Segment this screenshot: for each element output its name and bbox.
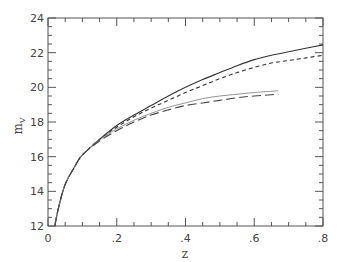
- series-upper-solid: [55, 45, 323, 226]
- chart: 0.2.4.6.8 12141618202224 z mV: [0, 0, 339, 262]
- y-axis-label-main: m: [11, 123, 25, 135]
- y-tick-label: 22: [30, 47, 44, 60]
- plot-border: [48, 18, 323, 226]
- series-lower-long-dash: [55, 94, 278, 226]
- y-tick-label: 12: [30, 220, 44, 233]
- x-axis-label: z: [182, 247, 188, 261]
- series-lower-solid-thin: [55, 91, 278, 226]
- x-tick-label: .8: [318, 232, 329, 245]
- x-tick-label: 0: [45, 232, 52, 245]
- y-tick-label: 24: [30, 12, 44, 25]
- plot-frame: [48, 18, 323, 226]
- y-tick-label: 14: [30, 185, 44, 198]
- y-axis-label-subscript: V: [18, 117, 27, 124]
- y-tick-label: 16: [30, 151, 44, 164]
- series-upper-short-dash: [55, 55, 323, 226]
- x-tick-labels: 0.2.4.6.8: [45, 232, 329, 245]
- x-tick-label: .4: [180, 232, 191, 245]
- x-tick-label: .2: [112, 232, 123, 245]
- data-series: [55, 45, 323, 226]
- y-tick-label: 20: [30, 81, 44, 94]
- x-tick-label: .6: [249, 232, 260, 245]
- y-tick-label: 18: [30, 116, 44, 129]
- y-tick-labels: 12141618202224: [30, 12, 44, 233]
- axis-ticks: [48, 18, 323, 226]
- y-axis-label: mV: [11, 117, 27, 134]
